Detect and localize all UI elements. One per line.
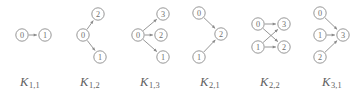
node-3: 3 — [278, 18, 290, 30]
node-label: 3 — [282, 20, 286, 29]
node-2: 2 — [314, 51, 326, 63]
node-1: 1 — [94, 51, 106, 63]
node-1: 1 — [193, 51, 205, 63]
arrow-head-icon — [273, 23, 276, 26]
arrow-head-icon — [273, 46, 276, 49]
node-label: 1 — [43, 31, 47, 40]
graph-canvas-k22: 0312 — [240, 0, 300, 70]
node-label: 0 — [81, 31, 85, 40]
node-label: 0 — [318, 9, 322, 18]
node-label: 2 — [96, 10, 100, 19]
graph-caption-k12: K1,2 — [60, 74, 120, 94]
node-label: 0 — [256, 20, 260, 29]
caption-subscript: 1,2 — [88, 81, 100, 90]
node-1: 1 — [39, 29, 51, 41]
node-3: 3 — [337, 29, 349, 41]
caption-subscript: 1,3 — [148, 81, 160, 90]
edge-0-to-3 — [265, 23, 276, 26]
edge-0-to-1 — [87, 40, 95, 50]
node-3: 3 — [157, 8, 169, 20]
node-0: 0 — [132, 29, 144, 41]
node-label: 1 — [98, 53, 102, 62]
node-label: 0 — [136, 31, 140, 40]
node-0: 0 — [77, 29, 89, 41]
edge-0-to-2 — [204, 18, 215, 29]
edge-0-to-2 — [145, 34, 153, 37]
node-label: 0 — [197, 9, 201, 18]
node-label: 2 — [219, 30, 223, 39]
graph-canvas-k11: 01 — [0, 0, 60, 70]
node-label: 3 — [341, 31, 345, 40]
edge-1-to-3 — [327, 34, 335, 37]
graph-panel-k21: 021K2,1 — [180, 0, 240, 98]
graph-canvas-k21: 021 — [180, 0, 240, 70]
node-0: 0 — [16, 29, 28, 41]
node-2: 2 — [92, 8, 104, 20]
arrow-head-icon — [150, 34, 153, 37]
node-label: 3 — [161, 10, 165, 19]
node-label: 1 — [318, 31, 322, 40]
graph-caption-k13: K1,3 — [120, 74, 180, 94]
node-label: 1 — [197, 53, 201, 62]
graph-canvas-k13: 0321 — [120, 0, 180, 70]
node-label: 2 — [282, 43, 286, 52]
node-2: 2 — [278, 41, 290, 53]
node-label: 2 — [318, 53, 322, 62]
node-label: 1 — [256, 43, 260, 52]
edge-2-to-3 — [325, 41, 337, 53]
node-1: 1 — [157, 51, 169, 63]
arrow-head-icon — [332, 34, 335, 37]
graph-figure: 01K1,1021K1,20321K1,3021K2,10312K2,20132… — [0, 0, 362, 98]
graph-panel-k11: 01K1,1 — [0, 0, 60, 98]
edge-1-to-2 — [204, 40, 216, 52]
node-1: 1 — [314, 29, 326, 41]
node-0: 0 — [193, 7, 205, 19]
node-0: 0 — [314, 7, 326, 19]
edge-0-to-3 — [325, 18, 337, 30]
node-label: 1 — [161, 53, 165, 62]
graph-panel-k12: 021K1,2 — [60, 0, 120, 98]
graph-panel-k22: 0312K2,2 — [240, 0, 300, 98]
edge-0-to-1 — [143, 39, 157, 51]
caption-subscript: 1,1 — [28, 81, 40, 90]
graph-panel-k31: 0132K3,1 — [302, 0, 362, 98]
caption-subscript: 3,1 — [330, 81, 342, 90]
graph-caption-k22: K2,2 — [240, 74, 300, 94]
graph-panel-k13: 0321K1,3 — [120, 0, 180, 98]
node-2: 2 — [215, 28, 227, 40]
graph-canvas-k12: 021 — [60, 0, 120, 70]
graph-caption-k11: K1,1 — [0, 74, 60, 94]
caption-subscript: 2,2 — [268, 81, 280, 90]
edge-0-to-1 — [29, 34, 37, 37]
graph-caption-k31: K3,1 — [302, 74, 362, 94]
node-label: 2 — [159, 31, 163, 40]
caption-subscript: 2,1 — [208, 81, 220, 90]
edge-0-to-3 — [143, 19, 157, 30]
graph-canvas-k31: 0132 — [302, 0, 362, 70]
edge-1-to-2 — [265, 46, 276, 49]
graph-caption-k21: K2,1 — [180, 74, 240, 94]
node-label: 0 — [20, 31, 24, 40]
node-2: 2 — [155, 29, 167, 41]
arrow-head-icon — [34, 34, 37, 37]
node-1: 1 — [252, 41, 264, 53]
edge-0-to-2 — [87, 21, 93, 30]
node-0: 0 — [252, 18, 264, 30]
